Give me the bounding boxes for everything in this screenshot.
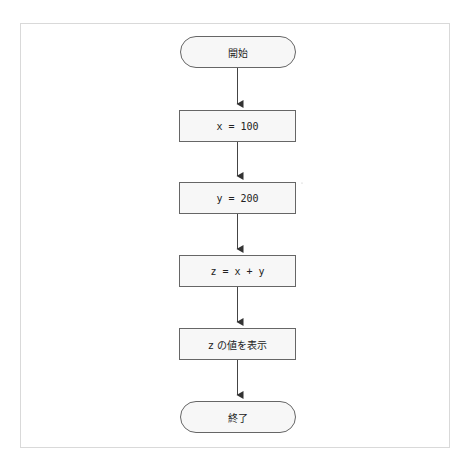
node-step3-label: z = x + y	[179, 255, 296, 287]
node-step1-label: x = 100	[179, 110, 296, 142]
stray-dot	[301, 182, 302, 183]
node-step2-label: y = 200	[179, 182, 296, 214]
node-step4-label: z の値を表示	[179, 328, 296, 360]
node-end-label: 終了	[180, 401, 296, 433]
node-start-label: 開始	[180, 36, 296, 68]
flowchart-canvas	[0, 0, 472, 466]
